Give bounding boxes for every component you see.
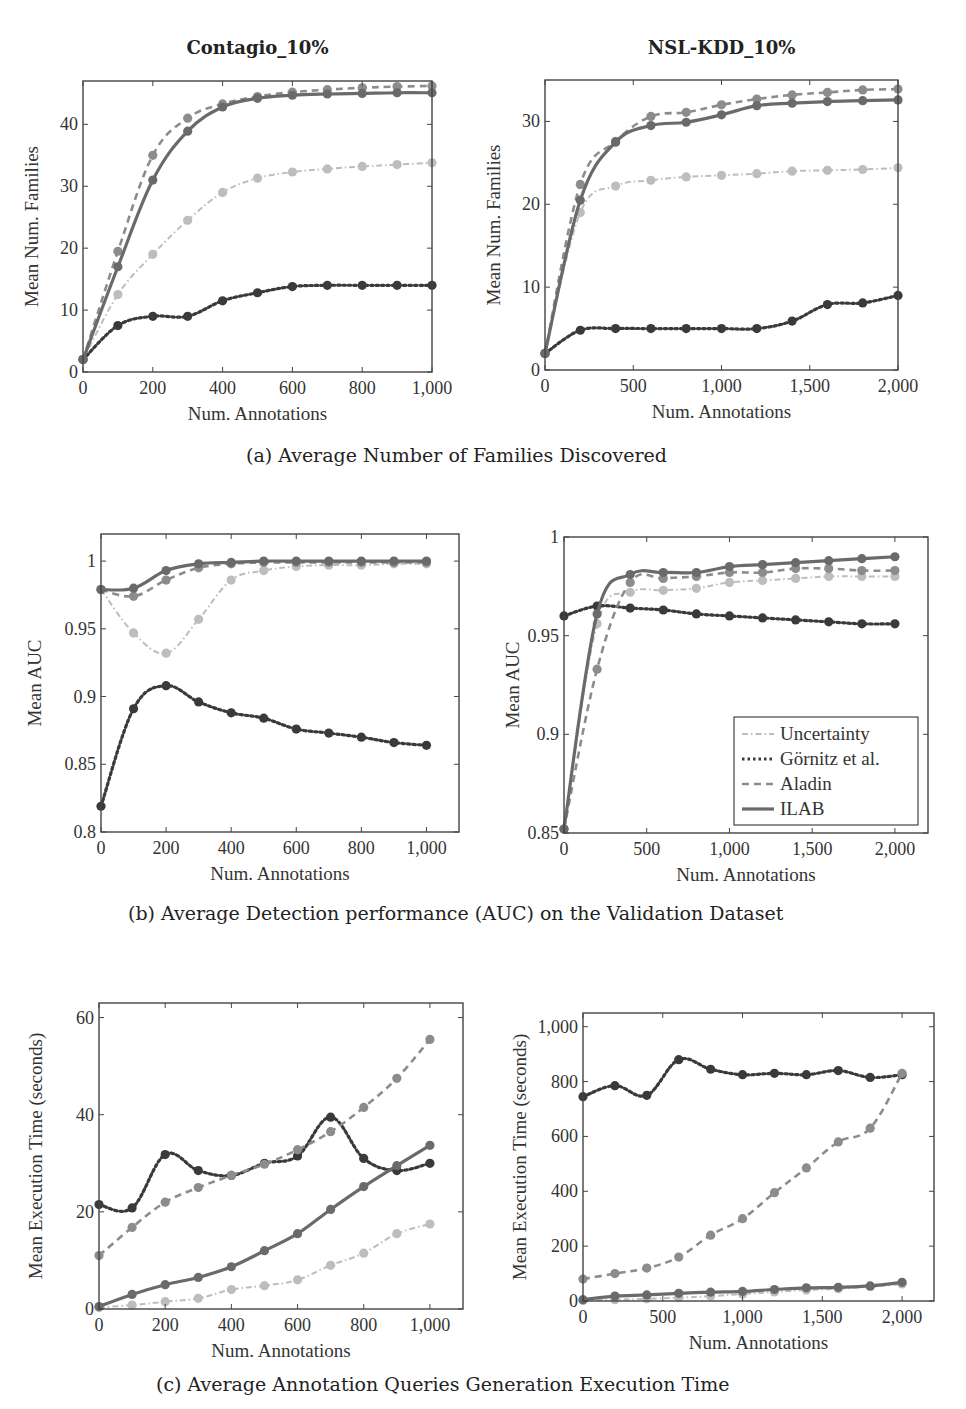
x-tick-label: 1,000 [701,376,742,396]
data-point-marker [293,1229,302,1238]
y-tick-label: 30 [522,111,540,131]
data-point-marker [752,169,761,178]
data-point-marker [218,296,227,305]
y-tick-label: 10 [522,277,540,297]
data-point-marker [834,1283,843,1292]
data-point-marker [725,562,734,571]
data-point-marker [161,1280,170,1289]
data-point-marker [218,102,227,111]
data-point-marker [148,250,157,259]
data-point-marker [127,1203,136,1212]
series-group [78,81,436,364]
data-point-marker [610,1081,619,1090]
y-tick-label: 1 [550,527,559,547]
data-point-marker [857,619,866,628]
data-point-marker [866,1281,875,1290]
data-point-marker [357,556,366,565]
data-point-marker [802,1070,811,1079]
data-point-marker [148,175,157,184]
data-point-marker [758,613,767,622]
data-point-marker [758,560,767,569]
series-group [540,85,902,359]
data-point-marker [576,196,585,205]
data-point-marker [260,1246,269,1255]
data-point-marker [788,99,797,108]
data-point-marker [161,566,170,575]
y-axis-label: Mean Num. Families [483,145,504,306]
caption-c: (c) Average Annotation Queries Generatio… [156,1373,729,1395]
series-line-aladin [545,89,898,353]
data-point-marker [626,578,635,587]
data-point-marker [253,174,262,183]
data-point-marker [823,300,832,309]
x-tick-label: 200 [152,1315,179,1335]
data-point-marker [717,171,726,180]
data-point-marker [260,1160,269,1169]
data-point-marker [611,138,620,147]
y-axis-label: Mean Num. Families [21,146,42,307]
data-point-marker [770,1285,779,1294]
y-tick-label: 0.85 [65,754,97,774]
y-tick-label: 0.95 [528,626,560,646]
data-point-marker [259,566,268,575]
data-point-marker [358,162,367,171]
data-point-marker [659,568,668,577]
data-point-marker [194,615,203,624]
data-point-marker [788,317,797,326]
data-point-marker [323,164,332,173]
data-point-marker [393,281,402,290]
data-point-marker [706,1288,715,1297]
data-point-marker [791,558,800,567]
data-point-marker [682,108,691,117]
data-point-marker [674,1289,683,1298]
data-point-marker [326,1113,335,1122]
series-line-uncertainty [83,163,432,360]
data-point-marker [288,91,297,100]
data-point-marker [834,1066,843,1075]
data-point-marker [758,576,767,585]
y-tick-label: 0.95 [65,619,97,639]
data-point-marker [359,1103,368,1112]
data-point-marker [148,312,157,321]
x-tick-label: 0 [79,378,88,398]
data-point-marker [611,324,620,333]
chart-svg: 05001,0001,5002,0000.850.90.951Num. Anno… [483,500,966,900]
data-point-marker [161,575,170,584]
data-point-marker [706,1065,715,1074]
data-point-marker [425,1141,434,1150]
data-point-marker [692,584,701,593]
data-point-marker [393,88,402,97]
data-point-marker [610,1291,619,1300]
data-point-marker [823,97,832,106]
chart-families-nslkdd: NSL-KDD_10%05001,0001,5002,0000102030Num… [483,20,966,440]
chart-title: NSL-KDD_10% [648,37,796,58]
data-point-marker [866,1073,875,1082]
x-tick-label: 400 [218,1315,245,1335]
chart-time-nslkdd: 05001,0001,5002,00002004006008001,000Num… [483,980,966,1375]
data-point-marker [359,1249,368,1258]
data-point-marker [890,552,899,561]
data-point-marker [359,1182,368,1191]
data-point-marker [824,556,833,565]
y-tick-label: 20 [76,1202,94,1222]
x-tick-label: 1,000 [410,1315,451,1335]
data-point-marker [692,568,701,577]
x-tick-label: 800 [349,378,376,398]
series-group [578,1055,906,1305]
data-point-marker [642,1263,651,1272]
data-point-marker [227,708,236,717]
series-group [94,1035,434,1312]
data-point-marker [389,556,398,565]
data-point-marker [326,1261,335,1270]
x-tick-label: 1,500 [802,1307,843,1327]
data-point-marker [227,1171,236,1180]
x-tick-label: 500 [633,839,660,859]
y-axis-label: Mean AUC [502,641,523,728]
data-point-marker [292,724,301,733]
data-point-marker [253,94,262,103]
data-point-marker [706,1231,715,1240]
data-point-marker [260,1281,269,1290]
data-point-marker [770,1069,779,1078]
data-point-marker [358,89,367,98]
data-point-marker [674,1055,683,1064]
